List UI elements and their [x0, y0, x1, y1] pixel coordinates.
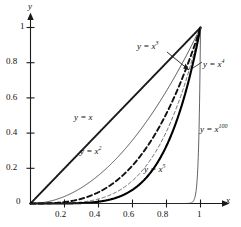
label-y-eq-x100: y = x100	[200, 124, 227, 134]
y-tick-label-02: 0.2	[6, 163, 17, 172]
x-tick-label-02: 0.2	[55, 210, 66, 219]
x-tick-label-04: 0.4	[89, 210, 100, 219]
label-y-eq-x100-base: y = x	[200, 124, 219, 134]
y-tick-label-06: 0.6	[6, 93, 17, 102]
annotation-pointer-group	[167, 52, 202, 70]
label-y-eq-x4: y = x4	[203, 59, 225, 69]
label-y-eq-x4-exponent: 4	[222, 58, 225, 64]
x-tick-label-08: 0.8	[157, 210, 168, 219]
label-y-eq-x2-exponent: 2	[99, 145, 102, 151]
label-y-eq-x3: y = x3	[137, 41, 159, 51]
label-y-eq-x5: y = x5	[144, 164, 166, 174]
label-y-eq-x3-base: y = x	[137, 41, 156, 51]
label-y-eq-x4-base: y = x	[203, 59, 222, 69]
label-y-eq-x100-exponent: 100	[219, 123, 228, 129]
label-y-eq-x2: y = x2	[80, 146, 102, 156]
y-axis-title: y	[28, 2, 32, 11]
chart-figure: y x 0 1 0.8 0.6 0.4 0.2 0.2 0.4 0.6 0.8 …	[0, 0, 241, 227]
y-tick-label-1: 1	[20, 22, 25, 31]
label-y-eq-x3-exponent: 3	[156, 40, 159, 46]
curve-y-x	[31, 28, 201, 204]
label-y-eq-x2-base: y = x	[80, 146, 99, 156]
plot-canvas	[0, 0, 241, 227]
y-tick-label-04: 0.4	[6, 128, 17, 137]
label-y-eq-x5-exponent: 5	[163, 163, 166, 169]
label-y-eq-x5-base: y = x	[144, 164, 163, 174]
x-tick-label-1: 1	[197, 210, 202, 219]
origin-tick-label: 0	[16, 197, 21, 206]
label-y-eq-x: y = x	[74, 113, 93, 122]
x-tick-label-06: 0.6	[123, 210, 134, 219]
label-y-eq-x-text: y = x	[74, 112, 93, 122]
x-axis-title: x	[226, 196, 230, 205]
curves-group	[31, 28, 201, 204]
y-tick-label-08: 0.8	[6, 57, 17, 66]
